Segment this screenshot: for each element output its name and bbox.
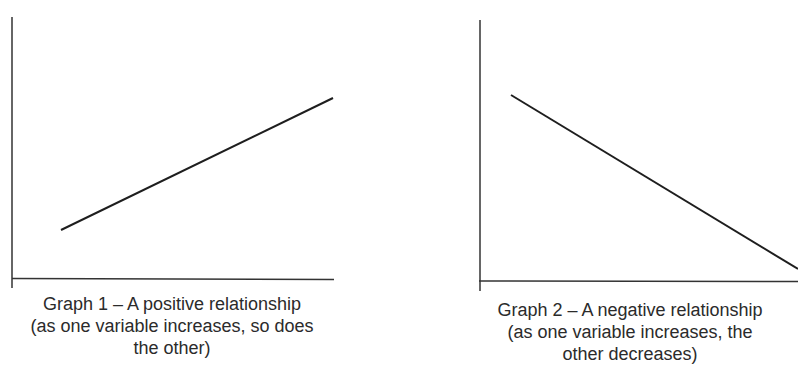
- graph-1-title: Graph 1 – A positive relationship: [0, 293, 344, 315]
- graph-2: [479, 20, 798, 291]
- graph-2-x-axis: [479, 281, 798, 282]
- graph-1-caption: Graph 1 – A positive relationship (as on…: [0, 293, 344, 359]
- graph-1-x-axis: [12, 279, 334, 280]
- graph-1-positive-line: [61, 98, 333, 230]
- graph-2-negative-line: [511, 95, 798, 269]
- graph-2-title: Graph 2 – A negative relationship: [462, 299, 798, 321]
- graph-2-caption: Graph 2 – A negative relationship (as on…: [462, 299, 798, 365]
- graph-2-description-line-2: other decreases): [462, 343, 798, 365]
- graph-1-description-line-1: (as one variable increases, so does: [0, 315, 344, 337]
- graph-1: [12, 17, 334, 288]
- graph-1-description-line-2: the other): [0, 337, 344, 359]
- graph-2-description-line-1: (as one variable increases, the: [462, 321, 798, 343]
